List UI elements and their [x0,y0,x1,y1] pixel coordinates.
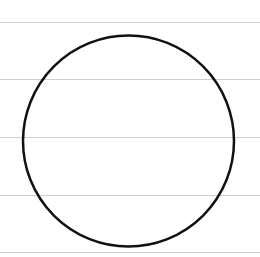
circle-drawing [0,0,260,257]
circle-outline [23,36,234,247]
